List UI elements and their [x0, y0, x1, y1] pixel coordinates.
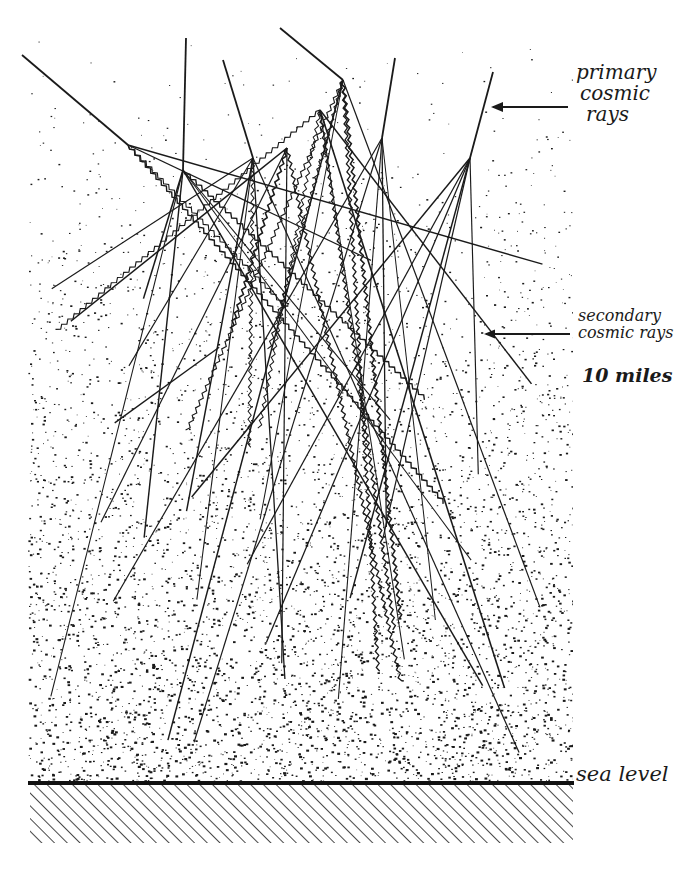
secondary-ray: [260, 80, 343, 519]
cosmic-ray-diagram: [0, 0, 693, 883]
secondary-ray: [470, 158, 478, 474]
altitude-label: 10 miles: [582, 366, 672, 386]
secondary-ray: [183, 38, 186, 170]
secondary-ray: [113, 138, 382, 601]
secondary-ray: [350, 158, 470, 598]
secondary-ray: [470, 72, 493, 158]
secondary-ray: [168, 80, 343, 740]
secondary-ray: [143, 170, 183, 299]
secondary-ray: [192, 158, 470, 497]
ground-hatching: [30, 783, 573, 843]
secondary-cosmic-rays-label: secondary cosmic rays: [578, 308, 674, 342]
secondary-ray-electron: [248, 158, 255, 447]
secondary-ray: [183, 170, 483, 686]
secondary-ray: [129, 158, 253, 366]
secondary-label-line2: cosmic rays: [578, 325, 674, 342]
primary-arrow: [491, 102, 568, 112]
secondary-arrow: [484, 330, 570, 339]
secondary-ray: [115, 347, 220, 423]
secondary-ray: [320, 110, 532, 384]
secondary-ray: [22, 55, 128, 145]
secondary-ray: [223, 60, 253, 158]
secondary-ray: [101, 148, 287, 522]
primary-cosmic-rays-label: primary cosmic rays: [576, 62, 657, 125]
secondary-ray: [320, 110, 404, 659]
secondary-ray: [382, 58, 395, 138]
secondary-ray: [280, 28, 343, 80]
primary-label-line2: cosmic: [576, 83, 657, 104]
sea-level-label: sea level: [576, 763, 669, 785]
primary-label-line3: rays: [576, 104, 657, 125]
atmosphere-stipple: [28, 42, 576, 784]
primary-label-line1: primary: [576, 62, 657, 83]
